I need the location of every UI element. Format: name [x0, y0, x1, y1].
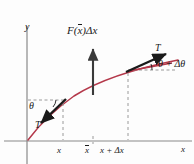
tick-label-xbar-text: x [85, 146, 89, 155]
tension-left-label: T [35, 120, 41, 130]
angle-arc-left [53, 100, 56, 107]
tension-right-label: T [155, 43, 161, 53]
tick-label-x: x [57, 146, 61, 155]
load-label-xbar: x [77, 25, 82, 36]
load-label: F(x)Δx [67, 25, 97, 36]
y-axis-label: y [25, 22, 29, 32]
x-axis-label: x [181, 145, 185, 154]
tick-label-x-plus-dx: x + Δx [100, 146, 124, 155]
angle-right-label: θ + Δθ [158, 59, 185, 69]
tension-left-arrow [41, 99, 66, 123]
angle-left-label: θ [29, 101, 34, 111]
cable-element-figure: y x F(x)Δx T T θ θ + Δθ x x x + Δx [0, 0, 194, 164]
load-label-delta-x: Δx [86, 24, 97, 36]
load-label-f: F( [67, 24, 77, 36]
tick-label-xbar: x [85, 146, 89, 155]
